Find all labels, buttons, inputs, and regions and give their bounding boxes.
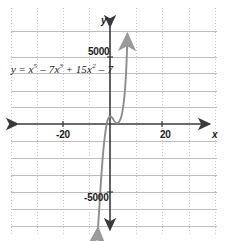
vertical-gridlines [11, 8, 215, 236]
x-tick-label-positive: 20 [160, 130, 171, 140]
equation-term3-exponent: 2 [92, 62, 96, 70]
equation-term2-exponent: 3 [60, 62, 64, 70]
y-axis-name: y [101, 16, 107, 26]
graph-figure: 5000 -5000 -20 20 y x y = x5 – 7x3 + 15x… [0, 0, 228, 241]
equation-term4-constant: 7 [107, 63, 113, 75]
equation-term3-coefficient: 15 [76, 63, 87, 75]
y-tick-label-positive: 5000 [88, 47, 109, 57]
y-tick-label-negative: -5000 [84, 193, 109, 203]
equation-annotation: y = x5 – 7x3 + 15x2 – 7 [11, 64, 113, 75]
equation-term2-sign: – [40, 63, 46, 75]
equation-term1-exponent: 5 [34, 62, 38, 70]
equation-term3-sign: + [66, 63, 72, 75]
equation-term4-sign: – [99, 63, 105, 75]
horizontal-gridlines [11, 31, 217, 226]
equation-equals: = [19, 63, 25, 75]
x-axis-name: x [212, 130, 218, 140]
x-tick-label-negative: -20 [56, 130, 70, 140]
plot-canvas [0, 0, 228, 241]
